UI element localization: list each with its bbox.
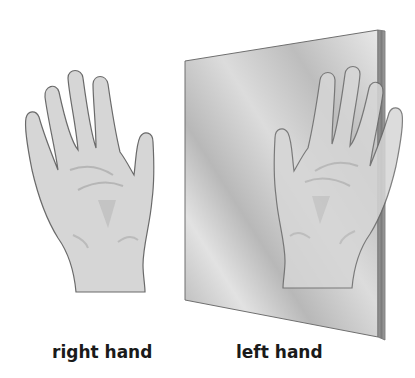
diagram: right hand left hand <box>0 0 415 378</box>
left-hand-label: left hand <box>236 342 323 362</box>
right-hand-label: right hand <box>52 342 152 362</box>
diagram-graphic <box>0 0 415 378</box>
right-hand-illustration <box>25 71 153 293</box>
